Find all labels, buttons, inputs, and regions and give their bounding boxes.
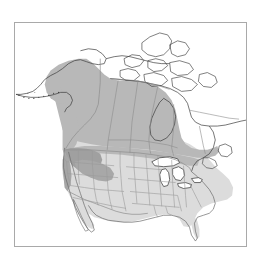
north-america-range-map <box>15 23 246 246</box>
map-frame <box>14 22 247 247</box>
figure-container <box>0 0 261 261</box>
